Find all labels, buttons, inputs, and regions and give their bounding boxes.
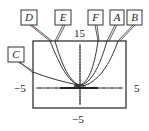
curve-tag-d: D (21, 12, 37, 23)
curve-tag-b: B (127, 12, 142, 23)
curve-tag-a: A (110, 12, 124, 23)
ymin-label: −5 (72, 114, 84, 125)
xmax-label: 5 (134, 83, 140, 94)
curve-tag-f: F (88, 12, 103, 23)
curve-F (74, 41, 98, 86)
curve-tag-c: C (8, 49, 24, 60)
xmin-label: −5 (14, 83, 26, 94)
curve-tag-e: E (55, 12, 71, 23)
curve-A (74, 41, 107, 86)
curve-C (33, 72, 86, 86)
ymax-label: 15 (74, 28, 85, 39)
graph-figure: D E F A B C 15 −5 5 −5 (0, 0, 149, 131)
